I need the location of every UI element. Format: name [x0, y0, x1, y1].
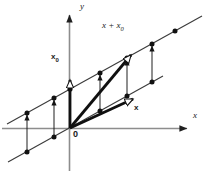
- point-marker: [173, 29, 178, 34]
- vector-x-plus-x0-label-base: x + x: [102, 20, 121, 30]
- upper-line-points-group: [25, 29, 178, 116]
- vector-diagram-figure: y x 0 x0 x + x0 x: [0, 0, 209, 175]
- vector-x-label: x: [134, 104, 138, 112]
- axes-group: [2, 15, 187, 171]
- y-axis-label: y: [80, 2, 84, 11]
- vector-x: [70, 99, 133, 128]
- vector-x-plus-x0-label-subscript: 0: [121, 25, 124, 32]
- vector-x0-label: x0: [51, 53, 59, 63]
- subspace-line-lower: [8, 76, 163, 162]
- translation-arrows-group: [27, 46, 152, 152]
- point-marker: [98, 71, 103, 76]
- point-marker: [25, 150, 30, 155]
- vector-x0-label-subscript: 0: [55, 57, 58, 63]
- vector-x-plus-x0-label: x + x0: [102, 21, 124, 32]
- point-marker: [150, 80, 155, 85]
- parallel-lines-group: [7, 16, 202, 162]
- vectors-group: [70, 55, 133, 128]
- point-marker: [150, 42, 155, 47]
- origin-label: 0: [73, 130, 78, 139]
- point-marker: [52, 135, 57, 140]
- point-marker: [125, 94, 130, 99]
- point-marker: [25, 111, 30, 116]
- x-axis-label: x: [193, 111, 197, 120]
- point-marker: [52, 96, 57, 101]
- vector-x-plus-x0: [70, 55, 131, 128]
